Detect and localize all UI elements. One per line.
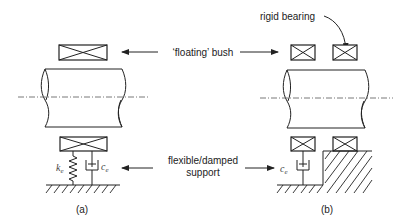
damper-label-b: ce <box>280 163 288 176</box>
spring-label: ke <box>56 162 64 175</box>
center-annotations: ‘floating’ bush flexible/damped support <box>122 47 278 178</box>
bearing-support-diagram: ke ce (a) ‘floating’ bush flex <box>0 0 405 222</box>
ground-a <box>46 185 120 193</box>
rigid-bearing-top-b <box>333 45 357 60</box>
damper-icon-a <box>86 151 98 185</box>
rigid-ground-b <box>277 151 372 193</box>
panel-b-label: (b) <box>321 204 333 215</box>
shaft-a <box>18 69 148 127</box>
floating-bush-top-a <box>59 45 107 60</box>
spring-icon <box>69 151 77 185</box>
rigid-bearing-bottom-b <box>333 137 357 151</box>
floating-bush-label: ‘floating’ bush <box>173 47 234 58</box>
shaft-b <box>260 70 393 128</box>
rigid-bearing-label: rigid bearing <box>260 11 315 22</box>
panel-b: rigid bearing <box>260 11 393 215</box>
panel-a: ke ce (a) <box>18 45 148 215</box>
panel-a-label: (a) <box>76 204 88 215</box>
damper-label-a: ce <box>101 161 109 174</box>
flexible-support-label-2: support <box>186 167 220 178</box>
damper-icon-b <box>297 151 309 185</box>
floating-bush-bottom-a <box>60 137 107 151</box>
floating-bush-bottom-b <box>291 137 315 151</box>
floating-bush-top-b <box>291 45 315 60</box>
flexible-support-label-1: flexible/damped <box>168 155 238 166</box>
